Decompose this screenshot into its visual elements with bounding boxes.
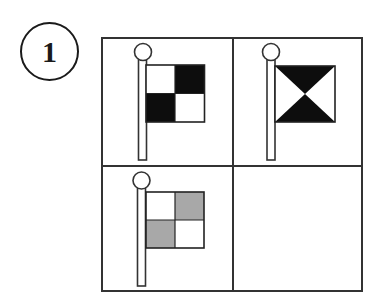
flag-puzzle-grid (101, 37, 363, 292)
cell-bottom-left-flag-icon (133, 172, 204, 286)
cell-bottom-right-empty-slot (234, 167, 361, 290)
cell-top-right-flag-icon (263, 44, 336, 161)
question-number-badge: 1 (20, 22, 79, 81)
cell-top-left-flag-icon (135, 44, 205, 161)
question-number: 1 (42, 35, 57, 69)
